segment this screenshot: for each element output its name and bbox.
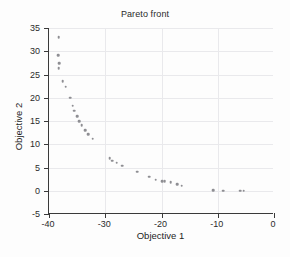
data-point bbox=[121, 164, 124, 167]
x-axis-tick-label: -30 bbox=[89, 219, 119, 229]
x-axis-tick bbox=[274, 213, 275, 218]
data-point bbox=[180, 184, 183, 187]
pareto-front-figure: Pareto front Objective 1 Objective 2 -50… bbox=[0, 0, 290, 257]
data-point bbox=[78, 120, 81, 123]
x-axis-tick-label: 0 bbox=[258, 219, 288, 229]
data-point bbox=[57, 36, 60, 39]
gridline-vertical bbox=[105, 28, 106, 213]
x-axis-tick bbox=[49, 213, 50, 218]
y-axis-tick-label: 10 bbox=[14, 139, 40, 149]
x-axis-tick-label: -40 bbox=[33, 219, 63, 229]
data-point bbox=[80, 124, 83, 127]
data-point bbox=[57, 54, 60, 57]
data-point bbox=[61, 80, 64, 83]
data-point bbox=[176, 183, 179, 186]
y-axis-tick bbox=[44, 144, 49, 145]
y-axis-tick bbox=[44, 51, 49, 52]
data-point bbox=[115, 162, 118, 165]
y-axis-tick bbox=[44, 98, 49, 99]
data-point bbox=[169, 181, 172, 184]
gridline-vertical bbox=[162, 28, 163, 213]
gridline-vertical bbox=[218, 28, 219, 213]
data-point bbox=[84, 129, 87, 132]
data-point bbox=[65, 85, 68, 88]
x-axis-tick-label: -10 bbox=[202, 219, 232, 229]
data-point bbox=[87, 133, 90, 136]
y-axis-tick-label: 20 bbox=[14, 93, 40, 103]
data-point bbox=[148, 176, 151, 179]
data-point bbox=[155, 178, 158, 181]
x-axis-label: Objective 1 bbox=[48, 230, 273, 241]
y-axis-tick-label: 35 bbox=[14, 23, 40, 33]
data-point bbox=[71, 104, 74, 107]
y-axis-tick bbox=[44, 28, 49, 29]
data-point bbox=[164, 180, 167, 183]
data-point bbox=[111, 159, 114, 162]
data-point bbox=[76, 115, 79, 118]
data-point bbox=[222, 189, 225, 192]
x-axis-tick bbox=[218, 213, 219, 218]
y-axis-tick-label: 30 bbox=[14, 46, 40, 56]
y-axis-tick-label: 0 bbox=[14, 186, 40, 196]
data-point bbox=[242, 189, 245, 192]
y-axis-tick bbox=[44, 168, 49, 169]
data-point bbox=[136, 170, 139, 173]
plot-area bbox=[48, 28, 273, 214]
y-axis-tick-label: 5 bbox=[14, 163, 40, 173]
y-axis-tick bbox=[44, 191, 49, 192]
data-point bbox=[239, 189, 242, 192]
plot-canvas bbox=[49, 28, 273, 213]
data-point bbox=[73, 109, 76, 112]
y-axis-tick-label: 15 bbox=[14, 116, 40, 126]
x-axis-tick-label: -20 bbox=[146, 219, 176, 229]
y-axis-tick-label: -5 bbox=[14, 209, 40, 219]
x-axis-tick bbox=[162, 213, 163, 218]
y-axis-tick bbox=[44, 75, 49, 76]
y-axis-tick bbox=[44, 121, 49, 122]
x-axis-tick bbox=[105, 213, 106, 218]
y-axis-tick-label: 25 bbox=[14, 70, 40, 80]
data-point bbox=[69, 96, 72, 99]
data-point bbox=[58, 62, 61, 65]
data-point bbox=[212, 189, 215, 192]
page-title: Pareto front bbox=[0, 9, 290, 19]
data-point bbox=[92, 137, 95, 140]
data-point bbox=[57, 67, 60, 70]
